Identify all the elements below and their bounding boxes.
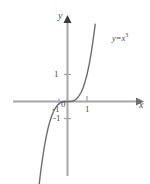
- x-axis-label: x: [139, 100, 143, 110]
- origin-label: 0: [61, 100, 66, 109]
- cubic-function-graph: y x 0 -1 1 1 -1 y=x3: [0, 0, 150, 184]
- y-axis-label: y: [58, 11, 62, 21]
- tick-label-y-negative-1: -1: [53, 114, 61, 123]
- equation-exponent: 3: [125, 32, 128, 38]
- y-axis-arrow-icon: [64, 15, 72, 23]
- tick-label-y-positive-1: 1: [54, 70, 59, 79]
- curve-equation-label: y=x3: [112, 34, 128, 43]
- graph-canvas: [0, 0, 150, 184]
- tick-label-x-positive-1: 1: [85, 105, 90, 114]
